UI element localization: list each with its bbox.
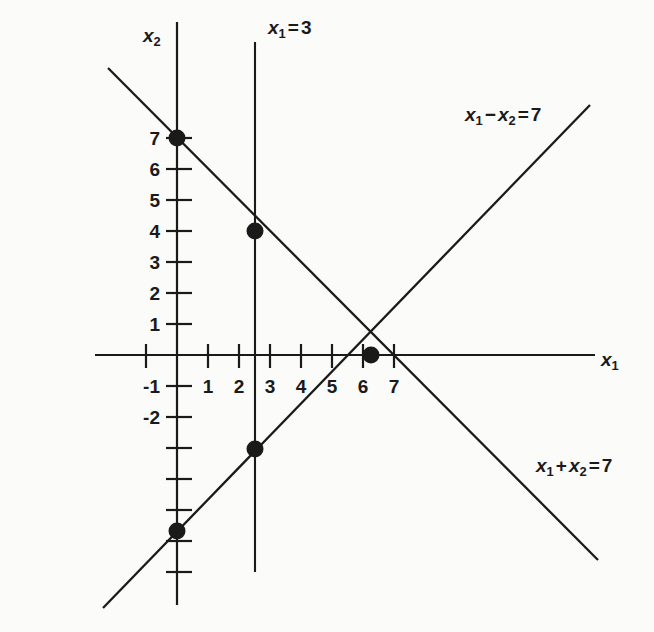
x-axis-label-sub: 1 (612, 358, 619, 373)
x-tick-label-5: 5 (317, 377, 347, 396)
y-axis-label-sub: 2 (154, 34, 161, 49)
x-axis-label-var: x (601, 349, 612, 370)
y-tick-label-3: 3 (128, 253, 160, 272)
annotation-minus-eq: = (516, 104, 531, 125)
annotation-x1-plus-x2-equals-7: x1+x2=7 (536, 456, 612, 479)
x-tick-label-2: 2 (224, 377, 254, 396)
y-tick-label-minus-2: -2 (110, 408, 160, 427)
x-tick-label-4: 4 (286, 377, 316, 396)
annotation-minus-var1: x (465, 104, 476, 125)
plot-canvas (0, 0, 654, 632)
data-point (169, 523, 186, 540)
annotation-x1-equals-3-op: = (286, 17, 301, 38)
y-tick-label-minus-1: -1 (110, 377, 160, 396)
y-tick-label-6: 6 (128, 160, 160, 179)
data-point (247, 223, 264, 240)
data-point (363, 347, 380, 364)
annotation-minus-sub2: 2 (508, 113, 515, 128)
y-axis-label: x2 (143, 26, 161, 49)
y-axis-label-var: x (143, 25, 154, 46)
annotation-minus-sub1: 1 (476, 113, 483, 128)
y-tick-label-4: 4 (128, 222, 160, 241)
y-tick-label-1: 1 (128, 315, 160, 334)
x-axis-label: x1 (601, 350, 619, 373)
annotation-plus-op: + (554, 455, 569, 476)
y-tick-label-2: 2 (128, 284, 160, 303)
x-tick-label-3: 3 (255, 377, 285, 396)
annotation-minus-rhs: 7 (531, 104, 542, 125)
annotation-plus-rhs: 7 (602, 455, 613, 476)
graph-figure: 7 6 5 4 3 2 1 -1 -2 1 2 3 4 5 6 7 x2 x1 … (0, 0, 654, 632)
data-points (169, 130, 380, 540)
annotation-plus-eq: = (587, 455, 602, 476)
annotation-minus-op: − (483, 104, 498, 125)
annotation-x1-equals-3-rhs: 3 (301, 17, 312, 38)
annotation-x1-equals-3: x1=3 (268, 18, 311, 41)
annotation-minus-var2: x (498, 104, 509, 125)
y-axis-ticks-negative (166, 386, 192, 572)
y-axis-ticks-positive (166, 138, 192, 324)
annotation-plus-sub2: 2 (579, 464, 586, 479)
x-tick-label-7: 7 (379, 377, 409, 396)
y-tick-label-5: 5 (128, 191, 160, 210)
x-tick-label-1: 1 (193, 377, 223, 396)
y-tick-label-7: 7 (128, 129, 160, 148)
data-point (169, 130, 186, 147)
data-point (247, 441, 264, 458)
annotation-x1-equals-3-var: x (268, 17, 279, 38)
annotation-x1-equals-3-sub: 1 (279, 26, 286, 41)
annotation-plus-var1: x (536, 455, 547, 476)
annotation-plus-var2: x (569, 455, 580, 476)
annotation-x1-minus-x2-equals-7: x1−x2=7 (465, 105, 541, 128)
annotation-plus-sub1: 1 (547, 464, 554, 479)
x-tick-label-6: 6 (348, 377, 378, 396)
